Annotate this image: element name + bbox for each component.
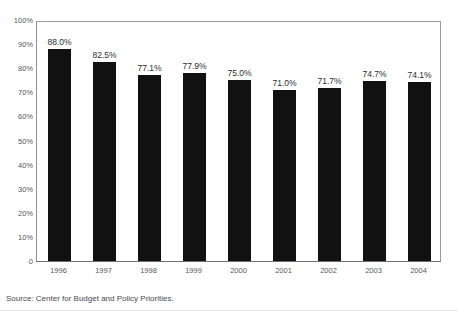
bar xyxy=(48,49,71,261)
x-axis-tick-label: 2000 xyxy=(218,266,259,276)
x-axis-tick-label: 2002 xyxy=(308,266,349,276)
x-axis-tick-label: 1996 xyxy=(38,266,79,276)
bar-value-label: 77.9% xyxy=(174,61,215,71)
bar xyxy=(138,75,161,261)
source-note: Source: Center for Budget and Policy Pri… xyxy=(6,293,174,304)
x-axis-tick-label: 2004 xyxy=(398,266,439,276)
bar xyxy=(408,82,431,261)
plot-area: 88.0%82.5%77.1%77.9%75.0%71.0%71.7%74.7%… xyxy=(36,21,441,262)
bar-value-label: 77.1% xyxy=(129,63,170,73)
bar-value-label: 82.5% xyxy=(84,50,125,60)
x-axis-tick-label: 2001 xyxy=(263,266,304,276)
bar-value-label: 88.0% xyxy=(39,37,80,47)
y-axis-tick-label: 70% xyxy=(0,89,33,97)
x-axis: 199619971998199920002001200220032004 xyxy=(36,266,441,280)
bar xyxy=(228,80,251,261)
bottom-divider xyxy=(0,310,458,311)
y-axis-tick-label: 0 xyxy=(0,258,33,266)
y-axis: 100%90%80%70%60%50%40%30%20%10%0 xyxy=(0,0,33,315)
bar-value-label: 75.0% xyxy=(219,68,260,78)
bar xyxy=(318,88,341,261)
bar-value-label: 74.1% xyxy=(399,70,440,80)
x-axis-tick-label: 1997 xyxy=(83,266,124,276)
y-axis-tick-label: 40% xyxy=(0,162,33,170)
chart-title-remnant xyxy=(0,0,458,9)
y-axis-tick-label: 90% xyxy=(0,41,33,49)
y-axis-tick-label: 60% xyxy=(0,113,33,121)
x-axis-tick-label: 1999 xyxy=(173,266,214,276)
y-axis-tick-label: 100% xyxy=(0,17,33,25)
y-axis-tick-label: 50% xyxy=(0,138,33,146)
y-axis-tick-label: 20% xyxy=(0,210,33,218)
x-axis-tick-label: 1998 xyxy=(128,266,169,276)
y-axis-tick-label: 80% xyxy=(0,65,33,73)
bar xyxy=(93,62,116,261)
bar xyxy=(183,73,206,261)
y-axis-tick-label: 30% xyxy=(0,186,33,194)
y-axis-tick-label: 10% xyxy=(0,234,33,242)
bar-value-label: 71.0% xyxy=(264,78,305,88)
x-axis-tick-label: 2003 xyxy=(353,266,394,276)
bar-value-label: 71.7% xyxy=(309,76,350,86)
bar-value-label: 74.7% xyxy=(354,69,395,79)
bar xyxy=(363,81,386,261)
x-axis-baseline xyxy=(36,261,441,262)
bar xyxy=(273,90,296,261)
